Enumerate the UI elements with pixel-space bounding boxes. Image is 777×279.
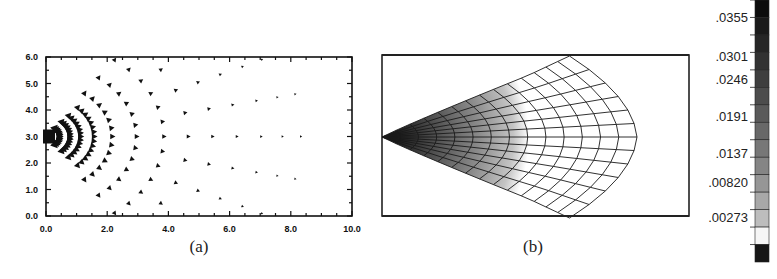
panel-a-vector-plot: 0.02.04.06.08.010.0 0.01.02.03.04.05.06.… xyxy=(25,52,360,256)
vector-arrow xyxy=(96,103,102,108)
vector-arrow xyxy=(261,59,264,61)
vector-arrow xyxy=(255,171,258,174)
vector-arrow xyxy=(126,201,131,206)
colorbar-band xyxy=(755,17,769,34)
colorbar-band xyxy=(755,70,769,87)
colorbar-label: .0246 xyxy=(715,72,748,87)
vector-arrow xyxy=(160,149,165,154)
vector-arrow xyxy=(282,135,284,137)
vector-arrow xyxy=(187,134,191,138)
x-tick-label: 0.0 xyxy=(40,224,53,234)
vector-arrow xyxy=(81,91,86,97)
y-tick-label: 0.0 xyxy=(25,211,38,221)
vector-arrow xyxy=(95,75,100,80)
vector-arrow xyxy=(89,171,95,177)
panel-a-caption: (a) xyxy=(190,237,209,256)
colorbar-label: .0137 xyxy=(715,146,748,161)
vector-arrow xyxy=(196,81,200,84)
colorbar-band xyxy=(755,140,769,157)
vector-arrow xyxy=(109,142,115,148)
vector-arrow xyxy=(96,164,102,169)
source-block xyxy=(43,130,55,144)
vector-arrow xyxy=(183,158,187,162)
colorbar-band xyxy=(755,0,769,17)
vector-arrow xyxy=(183,111,187,115)
vector-arrow xyxy=(109,126,115,132)
vector-arrow xyxy=(300,135,302,137)
vector-arrow xyxy=(294,93,296,95)
colorbar-band xyxy=(755,35,769,52)
vector-arrow xyxy=(135,134,140,139)
vector-arrow xyxy=(95,192,100,197)
colorbar-label: .00820 xyxy=(708,175,748,190)
vector-arrow xyxy=(124,167,129,172)
colorbar-band xyxy=(755,210,769,227)
vector-arrow xyxy=(255,100,258,103)
vector-arrow xyxy=(261,212,264,214)
colorbar: .0355.0301.0246.0191.0137.00820.00273 xyxy=(708,0,769,262)
vector-arrow xyxy=(160,120,165,125)
colorbar-labels: .0355.0301.0246.0191.0137.00820.00273 xyxy=(708,10,748,225)
y-tick-label: 5.0 xyxy=(25,79,38,89)
vector-arrow xyxy=(207,162,211,166)
vector-arrow xyxy=(81,176,86,182)
panel-b-caption: (b) xyxy=(523,237,543,256)
colorbar-label: .0355 xyxy=(715,10,748,25)
vector-arrow xyxy=(156,163,161,167)
vector-arrow xyxy=(148,177,153,181)
colorbar-bands xyxy=(750,0,769,262)
colorbar-band xyxy=(755,245,769,262)
vector-arrow xyxy=(156,105,161,109)
vector-arrow xyxy=(148,92,153,96)
vector-arrow xyxy=(124,102,129,107)
y-tick-label: 2.0 xyxy=(25,158,38,168)
figure: 0.02.04.06.08.010.0 0.01.02.03.04.05.06.… xyxy=(0,0,777,279)
colorbar-band xyxy=(755,87,769,104)
x-tick-label: 8.0 xyxy=(285,224,298,234)
colorbar-band xyxy=(755,52,769,69)
colorbar-label: .0301 xyxy=(715,49,748,64)
vector-arrow xyxy=(106,150,112,155)
vector-arrow xyxy=(138,79,143,83)
panel-a-y-axis-labels: 0.01.02.03.04.05.06.0 xyxy=(25,52,38,221)
vector-arrow xyxy=(116,176,121,181)
x-tick-label: 4.0 xyxy=(162,224,175,234)
vector-arrow xyxy=(219,73,222,76)
vector-arrow xyxy=(207,107,211,111)
panel-a-vector-arrows xyxy=(43,58,302,216)
colorbar-band xyxy=(755,105,769,122)
vector-arrow xyxy=(196,188,200,191)
vector-arrow xyxy=(130,156,135,161)
vector-arrow xyxy=(231,103,234,106)
vector-arrow xyxy=(102,111,108,116)
vector-arrow xyxy=(211,135,214,139)
vector-arrow xyxy=(241,205,244,208)
x-tick-label: 10.0 xyxy=(343,224,361,234)
vector-arrow xyxy=(158,68,162,72)
vector-arrow xyxy=(106,185,111,190)
panel-a-x-axis-labels: 0.02.04.06.08.010.0 xyxy=(40,224,361,234)
colorbar-band xyxy=(755,175,769,192)
vector-arrow xyxy=(89,96,95,102)
vector-arrow xyxy=(102,157,108,162)
vector-arrow xyxy=(106,118,112,123)
colorbar-label: .0191 xyxy=(715,109,748,124)
vector-arrow xyxy=(231,166,234,169)
vector-arrow xyxy=(158,201,162,205)
vector-arrow xyxy=(116,92,121,97)
vector-arrow xyxy=(294,177,296,179)
y-tick-label: 1.0 xyxy=(25,185,38,195)
vector-arrow xyxy=(219,197,222,200)
panel-b-contour-mesh: (b) xyxy=(382,55,689,256)
vector-arrow xyxy=(241,66,244,69)
vector-arrow xyxy=(112,58,116,63)
vector-arrow xyxy=(276,96,278,98)
vector-arrow xyxy=(162,134,166,139)
x-tick-label: 2.0 xyxy=(101,224,114,234)
vector-arrow xyxy=(133,145,138,150)
colorbar-label: .00273 xyxy=(708,210,748,225)
vector-arrow xyxy=(112,210,116,215)
colorbar-band xyxy=(755,122,769,139)
y-tick-label: 4.0 xyxy=(25,105,38,115)
y-tick-label: 6.0 xyxy=(25,52,38,62)
